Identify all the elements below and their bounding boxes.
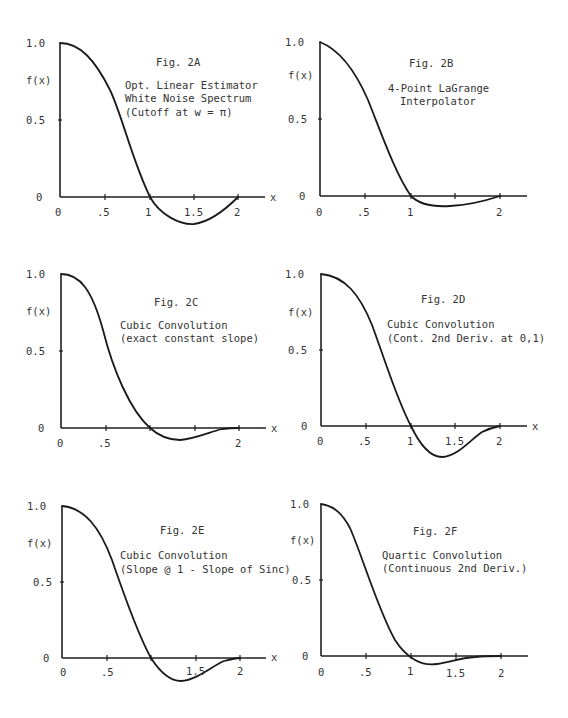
caption-line-1: Cubic Convolution (387, 318, 494, 330)
x-label: x (532, 420, 538, 432)
x-tick-1: 1 (145, 206, 151, 218)
x-tick-2: 2 (234, 206, 240, 218)
x-tick-2: 2 (496, 206, 502, 218)
fig-title: Fig. 2F (413, 525, 457, 537)
x-tick-2: 2 (496, 435, 502, 447)
y-tick-1: 1.0 (26, 268, 45, 280)
y-tick-05: 0.5 (26, 114, 45, 126)
x-tick-15: 1.5 (184, 206, 203, 218)
x-tick-15: 1.5 (445, 435, 464, 447)
caption-line-2: (Continuous 2nd Deriv.) (382, 562, 527, 574)
fig-title: Fig. 2E (160, 524, 204, 536)
curve-2e (62, 506, 240, 681)
y-label: f(x) (290, 534, 315, 546)
y-tick-0: 0 (38, 422, 44, 434)
panel-2c: 1.0 f(x) 0.5 0 x 0 .5 2 Fig. 2C Cubic Co… (26, 268, 277, 449)
x-tick-05: .5 (359, 666, 372, 678)
y-tick-0: 0 (43, 652, 49, 664)
x-tick-1: 1 (407, 665, 413, 677)
y-tick-0: 0 (301, 420, 307, 432)
x-tick-2: 2 (235, 437, 241, 449)
x-tick-2: 2 (498, 667, 504, 679)
y-tick-0: 0 (302, 650, 308, 662)
caption-line-1: Opt. Linear Estimator (125, 79, 258, 91)
y-label: f(x) (288, 306, 313, 318)
fig-title: Fig. 2A (156, 56, 201, 68)
y-label: f(x) (26, 305, 51, 317)
y-tick-0: 0 (36, 191, 42, 203)
y-tick-05: 0.5 (292, 574, 311, 586)
y-tick-1: 1.0 (27, 500, 46, 512)
x-tick-0: 0 (317, 435, 323, 447)
y-tick-0: 0 (299, 190, 305, 202)
x-label: x (271, 422, 277, 434)
x-tick-0: 0 (60, 666, 66, 678)
panel-2f: 1.0 f(x) 0.5 0 0 .5 1 1.5 2 Fig. 2F Quar… (290, 498, 528, 679)
x-tick-05: .5 (98, 437, 111, 449)
y-label: f(x) (26, 74, 51, 86)
curve-2c (61, 274, 239, 440)
caption-line-1: Cubic Convolution (120, 319, 227, 331)
x-tick-15: 1.5 (186, 665, 205, 677)
y-tick-05: 0.5 (26, 345, 45, 357)
x-tick-2: 2 (237, 665, 243, 677)
x-tick-0: 0 (318, 666, 324, 678)
x-tick-15: 1.5 (446, 667, 465, 679)
x-tick-05: .5 (101, 666, 114, 678)
panel-2b: 1.0 f(x) 0.5 0 0 .5 1 2 Fig. 2B 4-Point … (285, 36, 527, 218)
caption-line-1: Cubic Convolution (120, 549, 227, 561)
y-label: f(x) (288, 69, 313, 81)
caption-line-2: (Slope @ 1 - Slope of Sinc) (120, 563, 291, 575)
caption-line-2: Interpolator (400, 95, 476, 107)
x-label: x (271, 651, 277, 663)
caption-line-1: 4-Point LaGrange (388, 82, 489, 94)
panel-2a: 1.0 f(x) 0.5 0 x 0 .5 1 1.5 2 Fig. 2A Op… (26, 37, 276, 224)
y-tick-1: 1.0 (285, 36, 304, 48)
y-tick-05: 0.5 (288, 113, 307, 125)
y-tick-1: 1.0 (26, 37, 45, 49)
caption-line-2: White Noise Spectrum (125, 92, 251, 104)
x-tick-05: .5 (358, 435, 371, 447)
curve-2d (321, 274, 500, 457)
caption-line-2: (Cont. 2nd Deriv. at 0,1) (387, 332, 545, 344)
panel-2d: 1.0 f(x) 0.5 0 x 0 .5 1 1.5 2 Fig. 2D Cu… (285, 268, 545, 457)
curve-2f (321, 504, 501, 664)
x-tick-05: .5 (357, 206, 370, 218)
x-tick-0: 0 (57, 437, 63, 449)
y-label: f(x) (27, 537, 52, 549)
caption-line-1: Quartic Convolution (382, 549, 502, 561)
y-tick-05: 0.5 (33, 576, 52, 588)
caption-line-3: (Cutoff at w = π) (125, 106, 232, 118)
y-tick-05: 0.5 (288, 344, 307, 356)
x-tick-1: 1 (407, 206, 413, 218)
caption-line-2: (exact constant slope) (120, 332, 259, 344)
fig-title: Fig. 2D (421, 293, 465, 305)
figure-2-panels: 1.0 f(x) 0.5 0 x 0 .5 1 1.5 2 Fig. 2A Op… (0, 0, 568, 718)
x-label: x (270, 191, 276, 203)
x-tick-0: 0 (55, 206, 61, 218)
y-tick-1: 1.0 (285, 268, 304, 280)
x-tick-1: 1 (407, 435, 413, 447)
x-tick-0: 0 (316, 206, 322, 218)
fig-title: Fig. 2B (409, 57, 453, 69)
y-tick-1: 1.0 (290, 498, 309, 510)
x-tick-05: .5 (97, 206, 110, 218)
panel-2e: 1.0 f(x) 0.5 0 x 0 .5 1.5 2 Fig. 2E Cubi… (27, 500, 291, 681)
fig-title: Fig. 2C (154, 296, 198, 308)
